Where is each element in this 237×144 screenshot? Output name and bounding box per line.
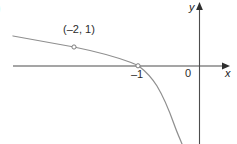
x-axis-label: x — [225, 68, 231, 79]
graph-figure: ) (–2, 1) –1 0 y x — [0, 0, 237, 144]
y-axis-label: y — [189, 2, 195, 13]
point-coordinate-label: (–2, 1) — [63, 24, 95, 35]
x-intercept-label: –1 — [131, 69, 143, 80]
y-axis-arrowhead — [196, 2, 203, 10]
origin-label: 0 — [185, 68, 191, 79]
curve-path — [13, 36, 182, 144]
coordinate-plane-svg — [0, 0, 237, 144]
point-marker-minus2-1 — [72, 45, 76, 49]
